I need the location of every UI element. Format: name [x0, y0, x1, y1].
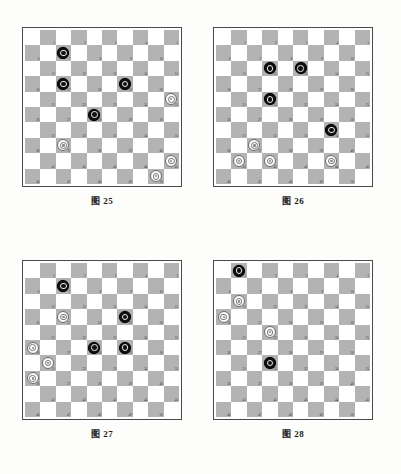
- light-square[interactable]: [293, 45, 308, 60]
- light-square[interactable]: [117, 294, 132, 309]
- square-5[interactable]: 5: [164, 263, 179, 278]
- light-square[interactable]: [355, 371, 370, 386]
- light-square[interactable]: [324, 138, 339, 153]
- light-square[interactable]: [324, 169, 339, 184]
- light-square[interactable]: [262, 309, 277, 324]
- light-square[interactable]: [117, 122, 132, 137]
- light-square[interactable]: [56, 325, 71, 340]
- light-square[interactable]: [293, 107, 308, 122]
- light-square[interactable]: [148, 122, 163, 137]
- light-square[interactable]: [262, 45, 277, 60]
- square-12[interactable]: 12: [262, 294, 277, 309]
- white-piece-11[interactable]: [233, 295, 245, 307]
- black-piece-1[interactable]: [233, 265, 245, 277]
- square-41[interactable]: 41: [231, 153, 246, 168]
- square-9[interactable]: 9: [308, 278, 323, 293]
- square-41[interactable]: 41: [40, 153, 55, 168]
- light-square[interactable]: [71, 169, 86, 184]
- light-square[interactable]: [102, 169, 117, 184]
- light-square[interactable]: [247, 61, 262, 76]
- square-35[interactable]: 35: [164, 122, 179, 137]
- square-10[interactable]: 10: [148, 278, 163, 293]
- square-48[interactable]: 48: [87, 169, 102, 184]
- light-square[interactable]: [148, 325, 163, 340]
- light-square[interactable]: [117, 386, 132, 401]
- light-square[interactable]: [40, 169, 55, 184]
- square-4[interactable]: 4: [324, 30, 339, 45]
- light-square[interactable]: [148, 92, 163, 107]
- light-square[interactable]: [117, 61, 132, 76]
- light-square[interactable]: [308, 263, 323, 278]
- square-24[interactable]: 24: [324, 325, 339, 340]
- square-8[interactable]: 8: [278, 278, 293, 293]
- light-square[interactable]: [278, 61, 293, 76]
- light-square[interactable]: [102, 371, 117, 386]
- light-square[interactable]: [164, 138, 179, 153]
- light-square[interactable]: [339, 153, 354, 168]
- square-33[interactable]: 33: [293, 122, 308, 137]
- light-square[interactable]: [164, 371, 179, 386]
- light-square[interactable]: [278, 294, 293, 309]
- light-square[interactable]: [117, 355, 132, 370]
- square-34[interactable]: 34: [324, 355, 339, 370]
- light-square[interactable]: [40, 371, 55, 386]
- light-square[interactable]: [102, 309, 117, 324]
- light-square[interactable]: [355, 107, 370, 122]
- square-34[interactable]: 34: [324, 122, 339, 137]
- square-49[interactable]: 49: [117, 402, 132, 417]
- light-square[interactable]: [133, 402, 148, 417]
- square-37[interactable]: 37: [247, 138, 262, 153]
- light-square[interactable]: [40, 76, 55, 91]
- square-40[interactable]: 40: [148, 138, 163, 153]
- square-35[interactable]: 35: [355, 355, 370, 370]
- square-5[interactable]: 5: [355, 30, 370, 45]
- square-23[interactable]: 23: [293, 325, 308, 340]
- light-square[interactable]: [247, 153, 262, 168]
- square-18[interactable]: 18: [278, 309, 293, 324]
- white-piece-50[interactable]: [150, 170, 162, 182]
- square-26[interactable]: 26: [216, 340, 231, 355]
- square-27[interactable]: 27: [247, 340, 262, 355]
- square-42[interactable]: 42: [71, 386, 86, 401]
- light-square[interactable]: [133, 371, 148, 386]
- square-11[interactable]: 11: [231, 294, 246, 309]
- square-16[interactable]: 16: [25, 309, 40, 324]
- square-39[interactable]: 39: [308, 138, 323, 153]
- light-square[interactable]: [216, 61, 231, 76]
- light-square[interactable]: [148, 30, 163, 45]
- light-square[interactable]: [355, 402, 370, 417]
- light-square[interactable]: [262, 76, 277, 91]
- square-45[interactable]: 45: [355, 153, 370, 168]
- square-2[interactable]: 2: [71, 263, 86, 278]
- light-square[interactable]: [71, 402, 86, 417]
- square-2[interactable]: 2: [262, 263, 277, 278]
- black-piece-19[interactable]: [119, 311, 131, 323]
- square-9[interactable]: 9: [117, 45, 132, 60]
- light-square[interactable]: [133, 76, 148, 91]
- square-46[interactable]: 46: [216, 402, 231, 417]
- square-28[interactable]: 28: [87, 107, 102, 122]
- square-23[interactable]: 23: [293, 92, 308, 107]
- black-piece-7[interactable]: [57, 47, 69, 59]
- black-piece-28[interactable]: [88, 342, 100, 354]
- light-square[interactable]: [339, 30, 354, 45]
- light-square[interactable]: [148, 294, 163, 309]
- light-square[interactable]: [293, 402, 308, 417]
- light-square[interactable]: [164, 169, 179, 184]
- square-27[interactable]: 27: [56, 340, 71, 355]
- light-square[interactable]: [247, 294, 262, 309]
- light-square[interactable]: [40, 107, 55, 122]
- square-27[interactable]: 27: [56, 107, 71, 122]
- square-47[interactable]: 47: [247, 169, 262, 184]
- square-16[interactable]: 16: [25, 76, 40, 91]
- square-11[interactable]: 11: [40, 61, 55, 76]
- square-40[interactable]: 40: [339, 371, 354, 386]
- square-3[interactable]: 3: [102, 263, 117, 278]
- square-29[interactable]: 29: [117, 340, 132, 355]
- square-21[interactable]: 21: [40, 92, 55, 107]
- light-square[interactable]: [324, 278, 339, 293]
- square-31[interactable]: 31: [231, 355, 246, 370]
- light-square[interactable]: [231, 45, 246, 60]
- light-square[interactable]: [148, 263, 163, 278]
- square-17[interactable]: 17: [247, 309, 262, 324]
